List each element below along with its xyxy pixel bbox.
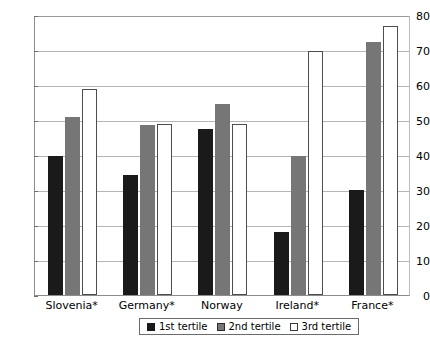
bar-germany-series-3 <box>157 124 172 296</box>
y-tick-mark <box>34 86 38 87</box>
x-tick-label: Ireland* <box>260 300 335 312</box>
bar-ireland-series-1 <box>274 232 289 295</box>
x-tick-label: Germany* <box>109 300 184 312</box>
y-tick-mark <box>34 16 38 17</box>
bar-norway-series-1 <box>198 129 213 295</box>
bar-group <box>110 16 185 295</box>
legend-entry: 3rd tertile <box>290 322 352 332</box>
x-tick-label: France* <box>335 300 410 312</box>
y-tick-label: 70 <box>404 46 430 57</box>
bar-group <box>336 16 411 295</box>
legend-label: 2nd tertile <box>229 322 281 332</box>
x-tick-label: Norway <box>184 300 259 312</box>
bar-norway-series-2 <box>215 104 230 295</box>
y-axis <box>0 0 30 312</box>
bar-group <box>185 16 260 295</box>
bar-ireland-series-3 <box>308 51 323 295</box>
y-tick-mark <box>34 121 38 122</box>
bar-germany-series-2 <box>140 125 155 295</box>
bar-france-series-2 <box>366 42 381 295</box>
y-tick-label: 10 <box>404 256 430 267</box>
y-tick-label: 80 <box>404 11 430 22</box>
y-tick-mark <box>34 191 38 192</box>
bar-germany-series-1 <box>123 175 138 295</box>
plot-area <box>34 16 410 296</box>
legend-entry: 1st tertile <box>147 322 208 332</box>
y-tick-label: 60 <box>404 81 430 92</box>
y-tick-mark <box>34 261 38 262</box>
bar-france-series-3 <box>383 26 398 296</box>
bar-group <box>35 16 110 295</box>
x-tick-label: Slovenia* <box>34 300 109 312</box>
chart-legend: 1st tertile2nd tertile3rd tertile <box>139 318 359 335</box>
white-square-icon <box>290 323 298 331</box>
bar-group <box>261 16 336 295</box>
bar-ireland-series-2 <box>291 156 306 295</box>
legend-label: 1st tertile <box>159 322 208 332</box>
bar-slovenia-series-1 <box>48 156 63 295</box>
y-tick-mark <box>34 156 38 157</box>
bar-france-series-1 <box>349 190 364 295</box>
gray-square-icon <box>217 323 225 331</box>
y-tick-mark <box>34 296 38 297</box>
y-tick-mark <box>34 51 38 52</box>
black-square-icon <box>147 323 155 331</box>
bar-norway-series-3 <box>232 124 247 296</box>
bar-slovenia-series-2 <box>65 117 80 296</box>
y-tick-label: 20 <box>404 221 430 232</box>
y-tick-mark <box>34 226 38 227</box>
bar-slovenia-series-3 <box>82 89 97 296</box>
y-tick-label: 40 <box>404 151 430 162</box>
legend-entry: 2nd tertile <box>217 322 281 332</box>
bar-chart: 01020304050607080 Slovenia*Germany*Norwa… <box>0 0 430 352</box>
y-tick-label: 30 <box>404 186 430 197</box>
legend-label: 3rd tertile <box>302 322 352 332</box>
y-tick-label: 50 <box>404 116 430 127</box>
